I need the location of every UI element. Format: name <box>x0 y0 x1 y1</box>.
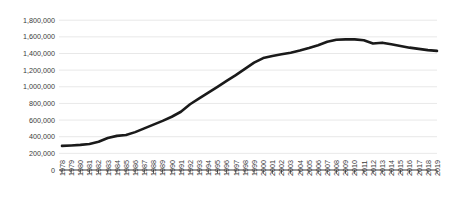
x-axis-tick-label: 1981 <box>85 160 94 176</box>
chart-plot-area: 1,800,0001,600,0001,400,0001,200,0001,00… <box>0 0 460 213</box>
x-axis-tick-label: 1985 <box>122 160 131 176</box>
x-axis-tick-label: 2003 <box>286 160 295 176</box>
x-axis-tick-label: 1987 <box>140 160 149 176</box>
x-axis-labels: 1978197919801981198219831984198519861987… <box>58 160 442 176</box>
x-axis-tick-label: 1993 <box>195 160 204 176</box>
x-axis-tick-label: 2015 <box>396 160 405 176</box>
x-axis-tick-label: 2018 <box>424 160 433 176</box>
x-axis-tick-label: 1997 <box>232 160 241 176</box>
x-axis-tick-label: 2009 <box>341 160 350 176</box>
x-axis-tick-label: 2016 <box>405 160 414 176</box>
x-axis-tick-label: 2007 <box>323 160 332 176</box>
x-axis-tick-label: 1984 <box>113 160 122 176</box>
y-axis-labels: 1,800,0001,600,0001,400,0001,200,0001,00… <box>23 16 55 175</box>
x-axis-tick-label: 1982 <box>94 160 103 176</box>
x-axis-tick-label: 2013 <box>378 160 387 176</box>
x-axis-tick-label: 2014 <box>387 160 396 176</box>
x-axis-tick-label: 2012 <box>369 160 378 176</box>
gridlines <box>59 20 437 153</box>
x-axis-tick-label: 2000 <box>259 160 268 176</box>
y-axis-tick-label: 1,400,000 <box>23 49 55 58</box>
x-axis-tick-label: 1989 <box>158 160 167 176</box>
x-axis-tick-label: 1994 <box>204 160 213 176</box>
x-axis-tick-label: 1998 <box>241 160 250 176</box>
y-axis-tick-label: 1,200,000 <box>23 66 55 75</box>
x-axis-tick-label: 2006 <box>314 160 323 176</box>
x-axis-tick-label: 1995 <box>213 160 222 176</box>
y-axis-tick-label: 1,600,000 <box>23 32 55 41</box>
x-axis-tick-label: 1990 <box>168 160 177 176</box>
x-axis-tick-label: 1988 <box>149 160 158 176</box>
y-axis-tick-label: 600,000 <box>29 116 55 125</box>
x-axis-tick-label: 2011 <box>360 161 369 176</box>
x-axis-tick-label: 1983 <box>104 160 113 176</box>
line-chart: 1,800,0001,600,0001,400,0001,200,0001,00… <box>0 0 460 213</box>
x-axis-tick-label: 1979 <box>67 160 76 176</box>
x-axis-tick-label: 1999 <box>250 160 259 176</box>
x-axis-tick-label: 2004 <box>296 160 305 176</box>
y-axis-tick-label: 1,000,000 <box>23 82 55 91</box>
y-axis-tick-label: 200,000 <box>29 149 55 158</box>
x-axis-tick-label: 2001 <box>268 160 277 176</box>
x-axis-tick-label: 1991 <box>177 160 186 176</box>
y-axis-tick-label: 1,800,000 <box>23 16 55 25</box>
x-axis-tick-label: 2005 <box>305 160 314 176</box>
y-axis-tick-label: 0 <box>51 166 55 175</box>
x-axis-tick-label: 1992 <box>186 160 195 176</box>
x-axis-tick-label: 1996 <box>222 160 231 176</box>
x-axis-tick-label: 1978 <box>58 160 67 176</box>
x-axis-tick-label: 2019 <box>433 160 442 176</box>
data-series-line <box>62 39 437 146</box>
y-axis-tick-label: 800,000 <box>29 99 55 108</box>
y-axis-tick-label: 400,000 <box>29 132 55 141</box>
x-axis-tick-label: 2002 <box>277 160 286 176</box>
x-axis-tick-label: 2008 <box>332 160 341 176</box>
x-axis-tick-label: 2017 <box>415 160 424 176</box>
x-axis-tick-label: 1986 <box>131 160 140 176</box>
x-axis-tick-label: 2010 <box>350 160 359 176</box>
x-axis-tick-label: 1980 <box>76 160 85 176</box>
